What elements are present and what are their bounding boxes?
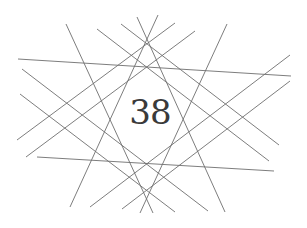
- center-number: 38: [0, 92, 300, 132]
- line-2: [37, 157, 274, 171]
- line-art-figure: 38: [0, 0, 307, 228]
